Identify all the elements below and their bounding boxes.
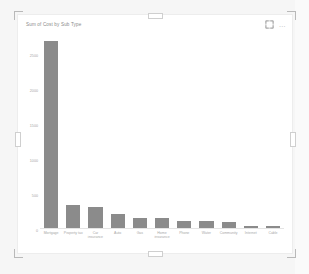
x-axis-label: Mortgage bbox=[44, 231, 59, 235]
x-axis-label: Water bbox=[202, 231, 211, 235]
bar-slot[interactable] bbox=[129, 33, 151, 228]
x-label-slot: Mortgage bbox=[40, 231, 62, 253]
x-label-slot: Auto bbox=[107, 231, 129, 253]
bar-slot[interactable] bbox=[218, 33, 240, 228]
bar-slot[interactable] bbox=[40, 33, 62, 228]
resize-handle-top[interactable] bbox=[148, 13, 163, 19]
visual-header-icons: … bbox=[265, 20, 287, 29]
y-axis: 25002000150010005000 bbox=[22, 33, 39, 229]
selection-handle-top-right[interactable] bbox=[287, 11, 296, 20]
x-axis-label: Cable bbox=[268, 231, 277, 235]
bar[interactable] bbox=[155, 218, 169, 228]
x-axis-label: Phone bbox=[179, 231, 189, 235]
bar-series bbox=[40, 33, 284, 228]
bar-slot[interactable] bbox=[107, 33, 129, 228]
selection-handle-top-left[interactable] bbox=[14, 11, 23, 20]
x-axis-line bbox=[40, 228, 284, 229]
x-label-slot: Phone bbox=[173, 231, 195, 253]
x-label-slot: Home insurance bbox=[151, 231, 173, 253]
x-label-slot: Cable bbox=[262, 231, 284, 253]
x-label-slot: Internet bbox=[240, 231, 262, 253]
bar-slot[interactable] bbox=[262, 33, 284, 228]
y-axis-tick: 2500 bbox=[30, 54, 38, 58]
bar-slot[interactable] bbox=[195, 33, 217, 228]
x-axis-label: Gas bbox=[137, 231, 143, 235]
resize-handle-right[interactable] bbox=[290, 132, 296, 147]
y-axis-tick: 1500 bbox=[30, 124, 38, 128]
selection-handle-bottom-right[interactable] bbox=[287, 249, 296, 258]
screenshot-root: Sum of Cost by Sub Type … 25002000150010… bbox=[0, 0, 309, 274]
x-label-slot: Property tax bbox=[62, 231, 84, 253]
bar[interactable] bbox=[44, 41, 58, 228]
plot-canvas bbox=[40, 33, 284, 229]
page-background-strip bbox=[295, 0, 309, 274]
visual-title: Sum of Cost by Sub Type bbox=[26, 22, 81, 28]
y-axis-tick: 1000 bbox=[30, 159, 38, 163]
x-axis-labels: MortgageProperty taxCar insuranceAutoGas… bbox=[40, 231, 284, 253]
bar[interactable] bbox=[199, 221, 213, 228]
focus-mode-icon[interactable] bbox=[265, 20, 274, 29]
bar[interactable] bbox=[88, 207, 102, 228]
y-axis-tick: 0 bbox=[36, 229, 38, 233]
bar-slot[interactable] bbox=[173, 33, 195, 228]
y-axis-tick: 500 bbox=[32, 194, 38, 198]
bar-chart-visual[interactable]: Sum of Cost by Sub Type … 25002000150010… bbox=[17, 14, 293, 254]
bar-slot[interactable] bbox=[240, 33, 262, 228]
bar[interactable] bbox=[133, 218, 147, 228]
resize-handle-bottom[interactable] bbox=[148, 251, 163, 257]
more-options-glyph: … bbox=[279, 21, 286, 28]
bar[interactable] bbox=[66, 205, 80, 228]
bar-slot[interactable] bbox=[62, 33, 84, 228]
x-label-slot: Gas bbox=[129, 231, 151, 253]
x-label-slot: Car insurance bbox=[84, 231, 106, 253]
x-axis-label: Car insurance bbox=[85, 231, 106, 239]
selection-handle-bottom-left[interactable] bbox=[14, 249, 23, 258]
bar[interactable] bbox=[111, 214, 125, 228]
x-axis-label: Community bbox=[220, 231, 238, 235]
more-options-icon[interactable]: … bbox=[278, 20, 287, 29]
x-axis-label: Auto bbox=[114, 231, 121, 235]
plot-area: 25002000150010005000 MortgageProperty ta… bbox=[18, 31, 292, 253]
x-label-slot: Community bbox=[218, 231, 240, 253]
x-axis-label: Property tax bbox=[64, 231, 83, 235]
bar-slot[interactable] bbox=[151, 33, 173, 228]
x-axis-label: Home insurance bbox=[151, 231, 172, 239]
bar[interactable] bbox=[177, 221, 191, 228]
x-axis-label: Internet bbox=[245, 231, 257, 235]
bar-slot[interactable] bbox=[84, 33, 106, 228]
y-axis-tick: 2000 bbox=[30, 89, 38, 93]
x-label-slot: Water bbox=[195, 231, 217, 253]
resize-handle-left[interactable] bbox=[15, 132, 21, 147]
